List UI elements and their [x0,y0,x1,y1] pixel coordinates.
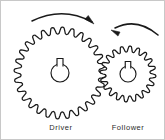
gear-keyway-follower [125,62,131,69]
gear-labels-layer: Driver Follower [49,123,144,132]
follower-rotation-arrow [111,24,158,36]
driver-rotation-arrow-head [85,15,94,24]
gear-bore-driver [51,64,69,82]
driver-rotation-arrow-shaft [32,14,92,22]
gear-label-driver: Driver [49,123,72,132]
follower-rotation-arrow-head [111,30,120,36]
gear-label-follower: Follower [112,123,145,132]
gear-keyway-driver [57,59,63,67]
gears-layer [14,27,156,119]
follower-rotation-arrow-shaft [115,24,158,35]
gear-train-diagram: Driver Follower [1,1,165,140]
driver-rotation-arrow [32,14,94,24]
gear-driver [14,27,106,119]
gear-diagram-canvas: Driver Follower [0,0,165,140]
gear-follower [100,46,156,102]
